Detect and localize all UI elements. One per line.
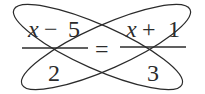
right-numerator-operator: + xyxy=(142,16,156,42)
equals-sign: = xyxy=(95,36,109,62)
right-numerator-variable: x xyxy=(125,16,137,42)
right-denominator: 3 xyxy=(147,60,159,86)
left-denominator: 2 xyxy=(48,60,60,86)
left-numerator-variable: x xyxy=(27,16,39,42)
equation-figure: x − 5 2 = x + 1 3 xyxy=(0,0,205,94)
left-numerator-constant: 5 xyxy=(68,16,80,42)
cross-multiplication-diagram: x − 5 2 = x + 1 3 xyxy=(0,0,205,94)
left-numerator-operator: − xyxy=(44,16,58,42)
right-numerator-constant: 1 xyxy=(168,16,180,42)
